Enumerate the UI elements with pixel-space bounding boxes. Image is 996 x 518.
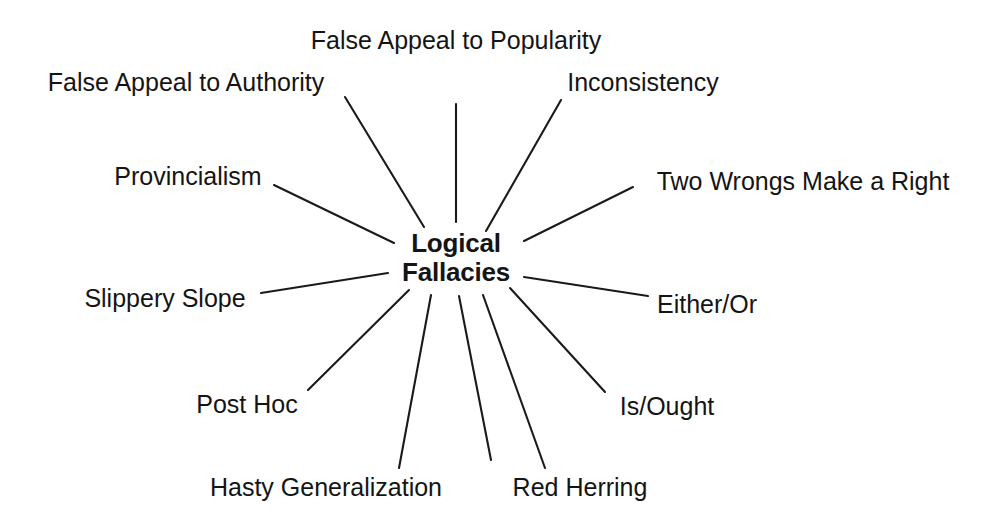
spoke-line xyxy=(524,187,633,241)
node-label-is-ought: Is/Ought xyxy=(620,394,715,419)
hub-label-line-1: Logical xyxy=(402,229,510,258)
node-label-post-hoc: Post Hoc xyxy=(196,392,297,417)
node-label-red-herring: Red Herring xyxy=(513,475,648,500)
node-label-two-wrongs-make-a-right: Two Wrongs Make a Right xyxy=(657,169,950,194)
hub-label-logical-fallacies: Logical Fallacies xyxy=(402,229,510,287)
spoke-line xyxy=(261,273,388,293)
node-label-provincialism: Provincialism xyxy=(114,164,261,189)
spoke-line xyxy=(274,185,394,243)
spoke-line xyxy=(399,295,431,468)
spoke-line xyxy=(486,100,561,231)
spoke-line xyxy=(459,296,491,460)
spoke-line xyxy=(510,288,605,392)
node-label-false-appeal-to-authority: False Appeal to Authority xyxy=(48,70,325,95)
node-label-slippery-slope: Slippery Slope xyxy=(84,286,245,311)
spoke-line xyxy=(524,277,648,296)
node-label-inconsistency: Inconsistency xyxy=(567,70,718,95)
spoke-line xyxy=(483,295,545,468)
logical-fallacies-diagram: Logical Fallacies False Appeal to Popula… xyxy=(0,0,996,518)
spoke-line xyxy=(308,290,409,390)
spoke-line xyxy=(345,97,424,227)
hub-label-line-2: Fallacies xyxy=(402,258,510,287)
node-label-either-or: Either/Or xyxy=(657,292,757,317)
node-label-hasty-generalization: Hasty Generalization xyxy=(210,475,442,500)
node-label-false-appeal-to-popularity: False Appeal to Popularity xyxy=(311,28,601,53)
